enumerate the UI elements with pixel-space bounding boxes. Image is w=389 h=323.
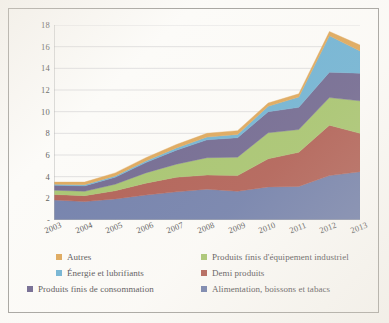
legend-label: Autres bbox=[67, 252, 91, 262]
legend-swatch-icon bbox=[201, 286, 207, 292]
legend-swatch-icon bbox=[56, 254, 62, 260]
legend-row: AutresProduits finis d'équipement indust… bbox=[23, 249, 368, 265]
chart-frame: -24681012141618 200320042005200620072008… bbox=[8, 8, 379, 313]
legend-row: Produits finis de consommationAlimentati… bbox=[23, 281, 368, 297]
x-tick-label: 2007 bbox=[165, 220, 185, 236]
y-tick-label: 2 bbox=[24, 194, 50, 202]
legend-swatch-icon bbox=[27, 286, 33, 292]
legend-item[interactable]: Produits finis de consommation bbox=[27, 281, 154, 297]
legend-row: Énergie et lubrifiantsDemi produits bbox=[23, 265, 368, 281]
screenshot-root: -24681012141618 200320042005200620072008… bbox=[0, 0, 389, 323]
chart-plot-region: -24681012141618 200320042005200620072008… bbox=[18, 15, 370, 237]
plot-surface bbox=[54, 25, 360, 220]
x-tick-label: 2006 bbox=[135, 220, 155, 236]
x-tick-label: 2013 bbox=[349, 220, 369, 236]
legend-item[interactable]: Demi produits bbox=[201, 265, 264, 281]
legend-swatch-icon bbox=[201, 270, 207, 276]
x-axis: 2003200420052006200720082009201020112012… bbox=[54, 223, 360, 239]
x-tick-label: 2004 bbox=[74, 220, 94, 236]
legend-label: Énergie et lubrifiants bbox=[67, 268, 144, 278]
legend-label: Demi produits bbox=[212, 268, 264, 278]
legend-swatch-icon bbox=[201, 254, 207, 260]
y-axis: -24681012141618 bbox=[18, 15, 50, 220]
x-tick-label: 2011 bbox=[288, 220, 308, 235]
x-tick-label: 2012 bbox=[318, 220, 338, 236]
x-tick-label: 2005 bbox=[104, 220, 124, 236]
legend-swatch-icon bbox=[56, 270, 62, 276]
legend-item[interactable]: Alimentation, boissons et tabacs bbox=[201, 281, 330, 297]
y-tick-label: 10 bbox=[24, 108, 50, 116]
legend-label: Produits finis de consommation bbox=[38, 284, 154, 294]
x-tick-label: 2009 bbox=[227, 220, 247, 236]
x-tick-label: 2008 bbox=[196, 220, 216, 236]
stacked-area-svg bbox=[54, 25, 360, 220]
y-tick-label: 14 bbox=[24, 64, 50, 72]
legend-label: Produits finis d'équipement industriel bbox=[212, 252, 349, 262]
y-tick-label: - bbox=[24, 216, 50, 224]
y-tick-label: 12 bbox=[24, 86, 50, 94]
legend-label: Alimentation, boissons et tabacs bbox=[212, 284, 330, 294]
legend-item[interactable]: Autres bbox=[56, 249, 91, 265]
y-tick-label: 18 bbox=[24, 21, 50, 29]
legend-item[interactable]: Produits finis d'équipement industriel bbox=[201, 249, 349, 265]
y-tick-label: 6 bbox=[24, 151, 50, 159]
legend-item[interactable]: Énergie et lubrifiants bbox=[56, 265, 144, 281]
y-tick-label: 4 bbox=[24, 173, 50, 181]
chart-legend: AutresProduits finis d'équipement indust… bbox=[23, 249, 368, 305]
x-tick-label: 2010 bbox=[257, 220, 277, 236]
y-tick-label: 16 bbox=[24, 43, 50, 51]
y-tick-label: 8 bbox=[24, 129, 50, 137]
